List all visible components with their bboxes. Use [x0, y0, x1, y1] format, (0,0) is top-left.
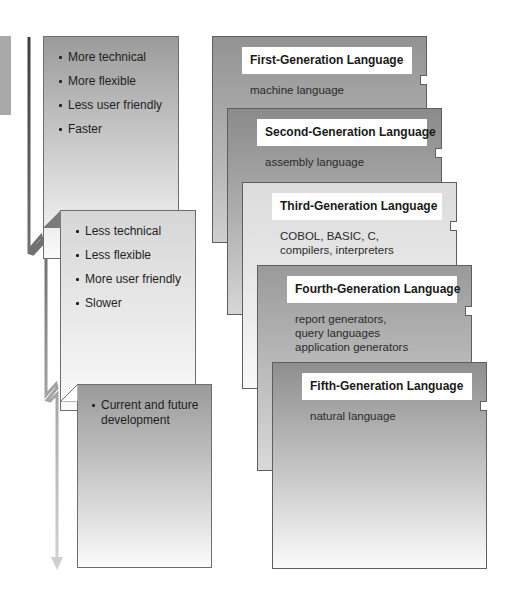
- generation-title: Fourth-Generation Language: [287, 276, 457, 303]
- characteristics-list: Less technical Less flexible More user f…: [76, 224, 181, 320]
- generation-description: natural language: [310, 409, 396, 423]
- generation-title: Second-Generation Language: [257, 119, 427, 146]
- bullet-item: More flexible: [59, 74, 162, 88]
- generation-description: machine language: [250, 83, 344, 97]
- bullet-item: More user friendly: [76, 272, 181, 286]
- bullet-item: Current and future development: [92, 398, 198, 428]
- characteristics-list: More technical More flexible Less user f…: [59, 50, 162, 146]
- page-fold-icon: [60, 384, 78, 402]
- generation-description: COBOL, BASIC, C, compilers, interpreters: [280, 229, 394, 257]
- tab-notch: [420, 75, 427, 85]
- generation-description: report generators, query languages appli…: [295, 312, 408, 354]
- generation-title: Third-Generation Language: [272, 193, 442, 220]
- generation-title: Fifth-Generation Language: [302, 373, 472, 400]
- bullet-item: Faster: [59, 122, 162, 136]
- tab-notch: [450, 221, 457, 231]
- tab-notch: [465, 306, 472, 316]
- characteristics-card-future: Current and future development: [77, 384, 212, 568]
- tab-notch: [435, 148, 442, 158]
- generation-description: assembly language: [265, 155, 364, 169]
- tab-notch: [480, 401, 487, 411]
- page-fold-icon: [43, 210, 61, 228]
- bullet-item: Less user friendly: [59, 98, 162, 112]
- bullet-item: More technical: [59, 50, 162, 64]
- generation-card-fifth: Fifth-Generation Language natural langua…: [272, 362, 487, 569]
- characteristics-card-later: Less technical Less flexible More user f…: [60, 210, 196, 411]
- bullet-item: Slower: [76, 296, 181, 310]
- bullet-item: Less flexible: [76, 248, 181, 262]
- characteristics-list: Current and future development: [92, 398, 198, 438]
- bullet-item: Less technical: [76, 224, 181, 238]
- generation-title: First-Generation Language: [242, 47, 412, 74]
